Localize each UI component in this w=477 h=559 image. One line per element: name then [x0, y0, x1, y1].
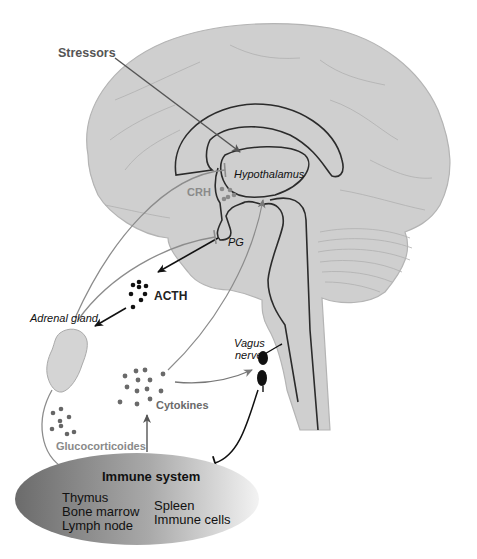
- immune-item: Thymus: [62, 490, 109, 505]
- cytokine-dot: [148, 378, 153, 383]
- cytokine-dot: [125, 385, 130, 390]
- arrow-acth-to-adrenal: [95, 308, 126, 326]
- cytokine-dot: [136, 378, 141, 383]
- label-cytokines: Cytokines: [156, 399, 209, 411]
- acth-dot: [143, 292, 148, 297]
- glucocorticoid-dot: [59, 424, 64, 429]
- immune-item: Spleen: [154, 498, 194, 513]
- brain: [87, 24, 450, 430]
- acth-dot: [131, 305, 136, 310]
- glucocorticoid-dot: [67, 415, 72, 420]
- immune-system-ellipse: [15, 453, 259, 545]
- acth-dot: [131, 283, 136, 288]
- acth-dot: [137, 280, 142, 285]
- crh-dot: [228, 188, 233, 193]
- crh-dot: [232, 193, 237, 198]
- immune-system-title: Immune system: [102, 469, 200, 484]
- glucocorticoid-dot: [65, 432, 70, 437]
- crh-dot: [220, 187, 225, 192]
- label-adrenal-gland: Adrenal gland: [29, 312, 99, 324]
- glucocorticoid-dot: [58, 419, 63, 424]
- cytokine-dot: [148, 397, 153, 402]
- crh-dot: [222, 197, 227, 202]
- glucocorticoid-dot: [72, 430, 77, 435]
- cytokine-dot: [134, 369, 139, 374]
- cytokine-dot: [143, 368, 148, 373]
- adrenal-gland: [47, 329, 88, 392]
- glucocorticoid-dot: [51, 411, 56, 416]
- acth-dots: [129, 280, 149, 310]
- label-crh: CRH: [187, 186, 211, 198]
- cytokine-dot: [145, 387, 150, 392]
- glucocorticoid-dot: [59, 407, 64, 412]
- inhibit-vagus-to-immune: [215, 390, 258, 463]
- cytokine-dot: [135, 402, 140, 407]
- immune-item: Bone marrow: [62, 504, 140, 519]
- label-hypothalamus: Hypothalamus: [234, 168, 305, 180]
- cytokine-dot: [123, 374, 128, 379]
- glucocorticoid-dots: [50, 407, 77, 437]
- cytokine-dot: [161, 372, 166, 377]
- acth-dot: [144, 284, 149, 289]
- cerebrum: [87, 24, 450, 430]
- label-vagus-line2: nerve: [235, 349, 263, 361]
- glucocorticoid-dot: [50, 427, 55, 432]
- arrow-cytokines-to-vagus: [175, 370, 252, 383]
- vagus-ganglion-lower: [257, 370, 267, 386]
- acth-dot: [137, 285, 142, 290]
- acth-dot: [139, 298, 144, 303]
- label-stressors: Stressors: [58, 46, 116, 60]
- label-pg: PG: [228, 236, 244, 248]
- label-glucocorticoides: Glucocorticoides: [56, 440, 146, 452]
- hpa-immune-diagram: Stressors Hypothalamus CRH PG ACTH Adren…: [0, 0, 477, 559]
- acth-dot: [129, 292, 134, 297]
- immune-item: Immune cells: [154, 512, 231, 527]
- crh-dot: [226, 195, 231, 200]
- label-vagus-line1: Vagus: [234, 337, 265, 349]
- cytokine-dot: [118, 400, 123, 405]
- label-acth: ACTH: [154, 289, 187, 303]
- immune-item: Lymph node: [62, 518, 133, 533]
- cytokine-dot: [135, 389, 140, 394]
- cytokine-dot: [159, 389, 164, 394]
